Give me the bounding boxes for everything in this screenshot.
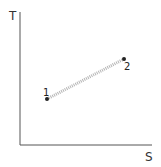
process-line [47, 59, 124, 99]
y-axis-label: T [9, 10, 16, 22]
point-1-label: 1 [43, 88, 49, 98]
x-axis-label: S [145, 151, 153, 163]
ts-diagram [0, 0, 161, 167]
point-2-label: 2 [124, 62, 130, 72]
